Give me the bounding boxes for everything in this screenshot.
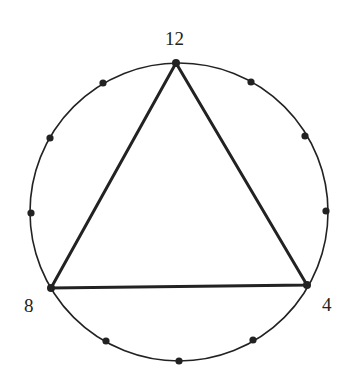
- clock-point-4: [303, 281, 311, 289]
- clock-point-8: [47, 284, 55, 292]
- label-4: 4: [322, 295, 332, 314]
- clock-point-5: [249, 336, 256, 343]
- clock-point-2: [301, 132, 308, 139]
- label-8: 8: [24, 296, 34, 315]
- clock-points: [27, 59, 329, 365]
- clock-point-3: [322, 207, 329, 214]
- clock-point-10: [46, 134, 53, 141]
- clock-point-6: [175, 357, 182, 364]
- clock-point-9: [27, 209, 34, 216]
- equilateral-triangle: [51, 63, 307, 288]
- label-12: 12: [165, 29, 184, 48]
- clock-point-12: [172, 59, 180, 67]
- clock-circle: [30, 63, 328, 361]
- clock-point-1: [247, 78, 254, 85]
- clock-point-11: [99, 79, 106, 86]
- clock-point-7: [102, 337, 109, 344]
- clock-triangle-diagram: [0, 0, 353, 384]
